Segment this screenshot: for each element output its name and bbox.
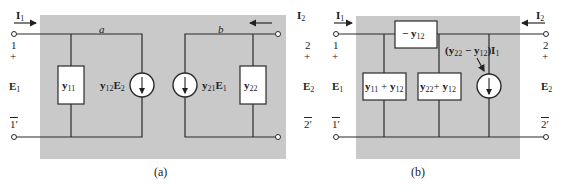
y21e1-source-label: y21E1 — [202, 80, 227, 94]
plus-sign-port2-a: + — [304, 51, 310, 62]
node-b-label: b — [218, 24, 224, 35]
port2-current-label-a: I2 — [297, 10, 305, 24]
y22-plus-y12-label: y22+ y12 — [420, 81, 456, 95]
e2-voltage-label-a: E2 — [303, 81, 314, 95]
y11-label: y11 — [62, 80, 75, 94]
node-a-label: a — [99, 24, 105, 35]
y11-plus-y12-label: y11 + y12 — [365, 81, 403, 95]
e1-voltage-label-b: E1 — [332, 81, 343, 95]
e1-voltage-label-a: E1 — [9, 81, 20, 95]
terminal-1prime-label-a: 1′ — [10, 119, 18, 130]
terminal-1prime-label-b: 1′ — [332, 119, 340, 130]
y22-label: y22 — [244, 80, 258, 94]
plus-sign-port2-b: + — [542, 51, 548, 62]
y12e2-source-label: y12E2 — [100, 80, 125, 94]
caption-a: (a) — [154, 165, 167, 180]
plus-sign-port1-a: + — [10, 51, 16, 62]
terminal-2prime-label-b: 2′ — [541, 119, 549, 130]
port1-current-label-a: I1 — [16, 10, 24, 24]
terminal-2prime-label-a: 2′ — [304, 119, 312, 130]
dependent-source-label: (y22 − y12)I1 — [445, 45, 499, 59]
caption-b: (b) — [411, 165, 425, 180]
plus-sign-port1-b: + — [332, 51, 338, 62]
e2-voltage-label-b: E2 — [541, 81, 552, 95]
port2-current-label-b: I2 — [536, 10, 544, 24]
circuit-wiring — [0, 0, 564, 190]
minus-y12-label: − y12 — [402, 28, 425, 42]
port1-current-label-b: I1 — [336, 10, 344, 24]
